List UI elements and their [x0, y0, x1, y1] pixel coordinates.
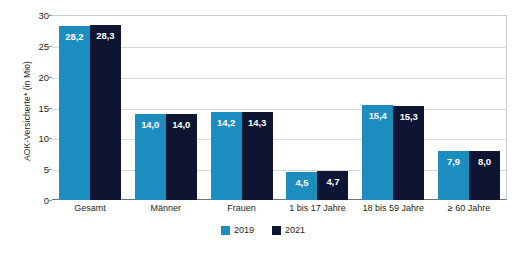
bar-2021[interactable]: 8,0 [469, 151, 500, 200]
legend-item-2021[interactable]: 2021 [272, 225, 305, 235]
x-axis-label: Frauen [204, 203, 280, 213]
bar-value-label: 14,0 [135, 119, 166, 130]
legend-item-2019[interactable]: 2019 [221, 225, 254, 235]
legend-swatch-icon [221, 226, 230, 235]
x-axis-label: Männer [128, 203, 204, 213]
bar-value-label: 4,7 [317, 176, 348, 187]
bar-value-label: 15,3 [393, 111, 424, 122]
bar-value-label: 14,3 [242, 117, 273, 128]
legend-swatch-icon [272, 226, 281, 235]
bar-group: 15,415,3 [357, 15, 429, 200]
y-tick-label-25: 25 [23, 40, 49, 51]
y-tick-label-15: 15 [23, 102, 49, 113]
bar-value-label: 28,2 [59, 31, 90, 42]
bar-2021[interactable]: 15,3 [393, 106, 424, 200]
bar-group: 28,228,3 [54, 15, 126, 200]
bar-2019[interactable]: 4,5 [286, 172, 317, 200]
bar-2019[interactable]: 14,2 [211, 112, 242, 200]
bar-2021[interactable]: 14,3 [242, 112, 273, 200]
bar-2021[interactable]: 4,7 [317, 171, 348, 200]
bar-chart: AOK-Versicherte* (in Mio) 30 25 20 15 10… [0, 0, 526, 254]
x-axis-label: ≥ 60 Jahre [431, 203, 507, 213]
x-axis-label: 1 bis 17 Jahre [279, 203, 355, 213]
x-axis-label: 18 bis 59 Jahre [355, 203, 431, 213]
x-axis-label: Gesamt [52, 203, 128, 213]
bar-value-label: 4,5 [286, 177, 317, 188]
y-tick-mark [48, 200, 52, 201]
bar-value-label: 14,0 [166, 119, 197, 130]
chart-legend: 2019 2021 [0, 225, 526, 235]
bar-group: 14,214,3 [206, 15, 278, 200]
y-tick-label-20: 20 [23, 71, 49, 82]
bar-value-label: 14,2 [211, 117, 242, 128]
bar-2019[interactable]: 14,0 [135, 114, 166, 200]
x-axis-labels: GesamtMännerFrauen1 bis 17 Jahre18 bis 5… [52, 203, 507, 213]
bar-value-label: 8,0 [469, 156, 500, 167]
bar-value-label: 28,3 [90, 30, 121, 41]
footnote-strip [0, 247, 526, 254]
y-tick-label-5: 5 [23, 164, 49, 175]
bar-2019[interactable]: 7,9 [438, 151, 469, 200]
y-tick-label-0: 0 [23, 195, 49, 206]
y-tick-label-10: 10 [23, 133, 49, 144]
bar-value-label: 15,4 [362, 110, 393, 121]
bar-group: 7,98,0 [433, 15, 505, 200]
bar-2021[interactable]: 28,3 [90, 25, 121, 200]
bar-groups: 28,228,314,014,014,214,34,54,715,415,37,… [52, 15, 507, 200]
bar-value-label: 7,9 [438, 156, 469, 167]
bar-2021[interactable]: 14,0 [166, 114, 197, 200]
y-tick-label-30: 30 [23, 10, 49, 21]
bar-group: 4,54,7 [281, 15, 353, 200]
legend-label: 2021 [285, 225, 305, 235]
bar-group: 14,014,0 [130, 15, 202, 200]
legend-label: 2019 [234, 225, 254, 235]
bar-2019[interactable]: 28,2 [59, 26, 90, 200]
bar-2019[interactable]: 15,4 [362, 105, 393, 200]
